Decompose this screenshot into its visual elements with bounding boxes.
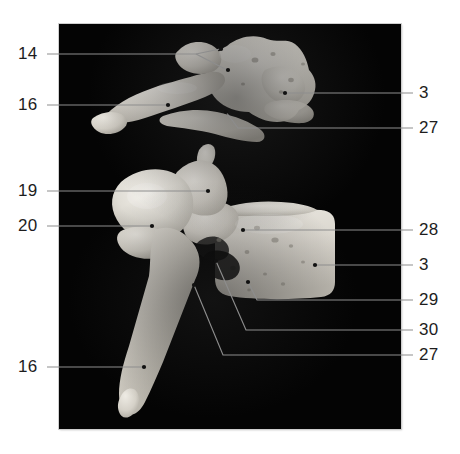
label-27-bot: 27	[419, 346, 439, 363]
label-19: 19	[18, 182, 38, 199]
label-20: 20	[18, 217, 38, 234]
anatomical-figure: 14 16 3 27 19 20 16 28 3 29 30 27	[0, 0, 460, 454]
label-28: 28	[419, 221, 439, 238]
label-27-top: 27	[419, 119, 439, 136]
label-16-bot: 16	[18, 358, 38, 375]
specimen-photograph	[59, 24, 401, 429]
label-16-top: 16	[18, 96, 38, 113]
label-29: 29	[419, 291, 439, 308]
label-30: 30	[419, 321, 439, 338]
label-3-top: 3	[419, 84, 429, 101]
photograph-plate	[59, 24, 401, 429]
label-3-bot: 3	[419, 256, 429, 273]
label-14: 14	[18, 45, 38, 62]
